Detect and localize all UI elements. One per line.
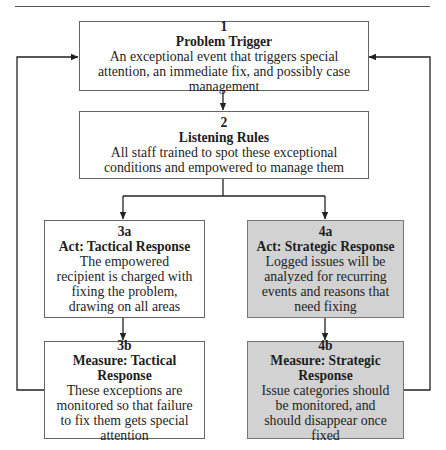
node-title: Problem Trigger bbox=[176, 34, 272, 49]
node-description: These exceptions are monitored so that f… bbox=[49, 383, 200, 443]
node-description: All staff trained to spot these exceptio… bbox=[84, 145, 364, 175]
node-number: 3a bbox=[118, 224, 132, 239]
node-measure-tactical-response: 3b Measure: Tactical Response These exce… bbox=[44, 341, 205, 439]
node-title: Measure: Tactical Response bbox=[49, 353, 200, 383]
node-title: Listening Rules bbox=[179, 130, 269, 145]
node-description: Issue categories should be monitored, an… bbox=[252, 383, 399, 443]
node-number: 3b bbox=[117, 338, 131, 353]
node-description: Logged issues will be analyzed for recur… bbox=[252, 254, 399, 314]
node-number: 4a bbox=[319, 224, 333, 239]
node-description: The empowered recipient is charged with … bbox=[49, 254, 200, 314]
node-listening-rules: 2 Listening Rules All staff trained to s… bbox=[79, 111, 369, 179]
node-number: 2 bbox=[221, 115, 228, 130]
node-number: 1 bbox=[221, 19, 228, 34]
node-measure-strategic-response: 4b Measure: Strategic Response Issue cat… bbox=[247, 341, 404, 439]
node-act-tactical-response: 3a Act: Tactical Response The empowered … bbox=[44, 220, 205, 318]
node-title: Measure: Strategic Response bbox=[252, 353, 399, 383]
node-title: Act: Tactical Response bbox=[59, 239, 190, 254]
node-description: An exceptional event that triggers speci… bbox=[84, 49, 364, 94]
node-problem-trigger: 1 Problem Trigger An exceptional event t… bbox=[79, 21, 369, 91]
node-number: 4b bbox=[318, 338, 332, 353]
node-act-strategic-response: 4a Act: Strategic Response Logged issues… bbox=[247, 220, 404, 318]
node-title: Act: Strategic Response bbox=[256, 239, 394, 254]
